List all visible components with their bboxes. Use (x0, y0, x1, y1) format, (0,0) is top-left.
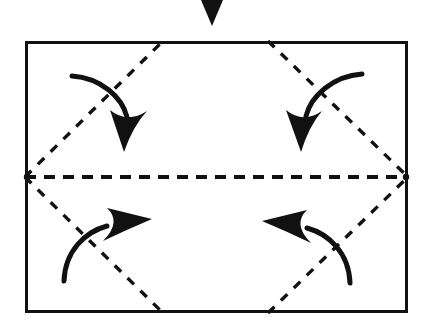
diagram-canvas (0, 0, 427, 330)
origami-fold-diagram (0, 0, 427, 330)
right-fold-vertex (403, 174, 409, 180)
left-fold-vertex (24, 174, 30, 180)
